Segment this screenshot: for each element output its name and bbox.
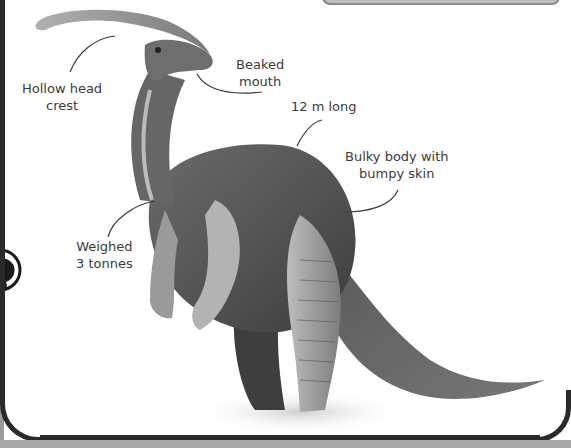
frame-bottom-strip [0,440,571,448]
leader-crest [70,36,115,72]
label-line: Hollow head [22,80,102,97]
label-line: 12 m long [291,98,357,115]
label-line: crest [22,97,102,114]
dinosaur-illustration [0,0,571,448]
leader-body [345,190,398,212]
label-bulky-body: Bulky body with bumpy skin [345,148,449,182]
frame-left-border [0,0,5,410]
page: Hollow head crest Beaked mouth 12 m long… [0,0,571,448]
label-hollow-head-crest: Hollow head crest [22,80,102,114]
label-line: 3 tonnes [76,255,133,272]
leader-length [297,120,322,146]
label-line: Weighed [76,238,133,255]
label-12m-long: 12 m long [291,98,357,115]
label-line: bumpy skin [345,165,449,182]
dino-tail [330,250,545,399]
leader-weight [108,201,155,237]
label-line: Bulky body with [345,148,449,165]
label-weighed-3-tonnes: Weighed 3 tonnes [76,238,133,272]
label-line: mouth [236,73,284,90]
label-beaked-mouth: Beaked mouth [236,56,284,90]
label-line: Beaked [236,56,284,73]
